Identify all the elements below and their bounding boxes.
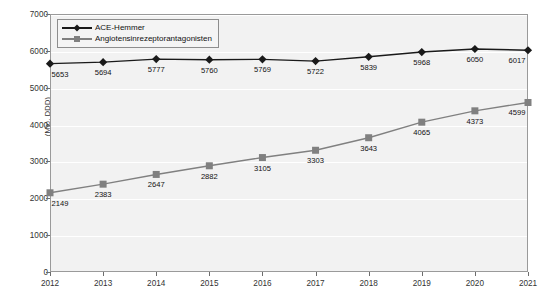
x-tick-mark [209, 272, 210, 276]
x-tick-label: 2021 [519, 279, 537, 288]
diamond-marker-icon [62, 22, 92, 33]
legend-label: Angiotensinrezeptorantagonisten [92, 34, 212, 43]
x-tick-mark [528, 272, 529, 276]
x-tick-mark [262, 272, 263, 276]
y-tick-mark [46, 198, 50, 199]
data-point-label: 4599 [509, 108, 526, 117]
x-tick-mark [475, 272, 476, 276]
gridline [51, 52, 527, 53]
data-point-label: 5694 [95, 68, 112, 77]
y-tick-mark [46, 88, 50, 89]
data-point-label: 5769 [254, 65, 271, 74]
plot-area [50, 14, 528, 272]
data-point-label: 2383 [95, 190, 112, 199]
data-point-label: 2149 [52, 199, 69, 208]
legend-label: ACE-Hemmer [92, 23, 145, 32]
data-point-label: 5653 [52, 70, 69, 79]
gridline [51, 236, 527, 237]
y-tick-label: 0 [14, 268, 48, 277]
y-tick-label: 5000 [14, 83, 48, 92]
x-tick-label: 2016 [253, 279, 271, 288]
data-point-label: 5839 [360, 63, 377, 72]
y-tick-mark [46, 51, 50, 52]
legend-item[interactable]: ACE-Hemmer [62, 22, 212, 33]
y-tick-mark [46, 235, 50, 236]
x-tick-label: 2020 [466, 279, 484, 288]
data-point-label: 3643 [360, 144, 377, 153]
data-point-label: 6050 [466, 55, 483, 64]
x-tick-label: 2018 [360, 279, 378, 288]
legend-item[interactable]: Angiotensinrezeptorantagonisten [62, 33, 212, 44]
data-point-label: 5777 [148, 65, 165, 74]
y-tick-label: 1000 [14, 231, 48, 240]
chart-legend: ACE-HemmerAngiotensinrezeptorantagoniste… [57, 19, 219, 48]
x-tick-label: 2013 [94, 279, 112, 288]
gridline [51, 15, 527, 16]
data-point-label: 5760 [201, 66, 218, 75]
data-point-label: 3303 [307, 156, 324, 165]
y-tick-mark [46, 272, 50, 273]
data-point-label: 4373 [466, 117, 483, 126]
x-tick-label: 2015 [200, 279, 218, 288]
y-tick-mark [46, 125, 50, 126]
x-tick-mark [156, 272, 157, 276]
y-tick-label: 4000 [14, 120, 48, 129]
x-tick-mark [369, 272, 370, 276]
data-point-label: 4065 [413, 128, 430, 137]
data-point-label: 6017 [509, 56, 526, 65]
gridline [51, 199, 527, 200]
gridline [51, 126, 527, 127]
y-tick-label: 2000 [14, 194, 48, 203]
y-tick-mark [46, 14, 50, 15]
x-tick-label: 2017 [306, 279, 324, 288]
y-tick-label: 3000 [14, 157, 48, 166]
x-tick-label: 2012 [41, 279, 59, 288]
y-tick-label: 7000 [14, 10, 48, 19]
y-tick-mark [46, 161, 50, 162]
x-tick-mark [422, 272, 423, 276]
data-point-label: 2882 [201, 172, 218, 181]
data-point-label: 2647 [148, 180, 165, 189]
data-point-label: 5968 [413, 58, 430, 67]
square-marker-icon [62, 33, 92, 44]
chart-container: (Mio. DDD) 01000200030004000500060007000… [0, 0, 551, 300]
x-tick-mark [103, 272, 104, 276]
data-point-label: 5722 [307, 67, 324, 76]
gridline [51, 89, 527, 90]
x-tick-mark [50, 272, 51, 276]
x-tick-label: 2014 [147, 279, 165, 288]
gridline [51, 162, 527, 163]
x-tick-label: 2019 [413, 279, 431, 288]
data-point-label: 3105 [254, 164, 271, 173]
y-tick-label: 6000 [14, 46, 48, 55]
x-tick-mark [316, 272, 317, 276]
y-axis-tick-labels: 01000200030004000500060007000 [8, 0, 48, 300]
